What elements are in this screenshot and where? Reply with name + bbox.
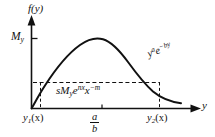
x-axis-label: y bbox=[202, 100, 207, 111]
figure-container: f(y) y My yae−by sMyenxx−m y1(x) a b y2(… bbox=[0, 0, 215, 137]
max-value-label: My bbox=[11, 31, 24, 44]
mode-fraction: a b bbox=[90, 111, 99, 134]
y2-tick-label: y2(x) bbox=[147, 113, 167, 125]
y2-argument: (x) bbox=[155, 112, 167, 123]
y1-argument: (x) bbox=[31, 112, 43, 123]
mode-numerator: a bbox=[90, 111, 99, 122]
x-axis-arrowhead bbox=[191, 105, 202, 113]
mode-tick-label: a b bbox=[90, 111, 99, 135]
max-value-subscript: y bbox=[21, 35, 24, 44]
y-axis-arrowhead bbox=[28, 15, 36, 26]
threshold-x-exponent: −m bbox=[90, 83, 100, 92]
y-axis-label: f(y) bbox=[28, 3, 43, 14]
x-axis-label-text: y bbox=[202, 99, 207, 111]
max-value-base: M bbox=[11, 30, 21, 42]
y-axis-label-text: f(y) bbox=[28, 2, 43, 14]
threshold-equation-label: sMyenxx−m bbox=[56, 84, 100, 97]
threshold-e-exponent: nx bbox=[78, 83, 85, 92]
x-axis bbox=[32, 105, 202, 113]
y-axis bbox=[28, 15, 36, 109]
mode-denominator: b bbox=[90, 123, 99, 134]
y1-tick-label: y1(x) bbox=[23, 113, 43, 125]
